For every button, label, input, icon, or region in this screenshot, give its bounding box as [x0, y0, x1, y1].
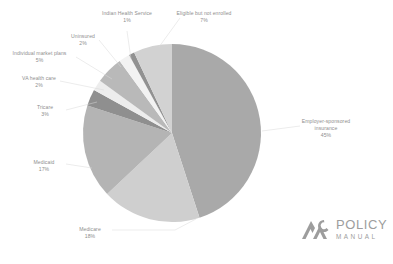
leader-line-individual [76, 57, 112, 79]
logo-wordmark: POLICY MANUAL [336, 218, 387, 241]
pie-label-uninsured: Uninsured 2% [65, 33, 101, 47]
pie-label-medicaid: Medicaid 17% [22, 159, 66, 173]
pie-label-employer-name2: insurance [315, 125, 338, 131]
leader-line-ihs [127, 31, 131, 59]
pie-label-medicare-pct: 18% [68, 233, 112, 240]
pie-label-eligible-name: Eligible but not enrolled [177, 10, 232, 16]
policy-manual-logo: POLICY MANUAL [300, 215, 384, 247]
pie-label-individual-name: Individual market plans [13, 50, 67, 56]
pie-label-employer-pct: 45% [286, 132, 366, 139]
pie-label-va-health-care: VA health care 2% [15, 75, 63, 89]
pie-label-tricare-name: Tricare [37, 104, 53, 110]
leader-line-medicaid [66, 164, 92, 168]
pie-label-employer-sponsored-insurance: Employer-sponsored insurance 45% [286, 118, 366, 140]
mountain-logo-icon [300, 215, 336, 243]
pie-label-uninsured-name: Uninsured [71, 33, 95, 39]
pie-label-eligible-pct: 7% [163, 17, 245, 24]
pie-label-medicaid-name: Medicaid [33, 159, 54, 165]
pie-label-medicare-name: Medicare [79, 226, 101, 232]
pie-label-va-pct: 2% [15, 82, 63, 89]
pie-label-eligible-but-not-enrolled: Eligible but not enrolled 7% [163, 10, 245, 24]
pie-label-medicare: Medicare 18% [68, 226, 112, 240]
leader-line-uninsured [99, 40, 121, 67]
pie-label-medicaid-pct: 17% [22, 166, 66, 173]
pie-label-employer-name: Employer-sponsored [302, 118, 350, 124]
pie-label-ihs-pct: 1% [91, 17, 163, 24]
pie-label-individual-market-plans: Individual market plans 5% [3, 50, 76, 64]
pie-label-individual-pct: 5% [3, 57, 76, 64]
pie-label-uninsured-pct: 2% [65, 40, 101, 47]
pie-label-indian-health-service: Indian Health Service 1% [91, 10, 163, 24]
logo-manual-text: MANUAL [336, 232, 387, 241]
pie-chart-figure: Employer-sponsored insurance 45% Medicar… [0, 0, 393, 264]
pie-slices [83, 44, 261, 222]
logo-policy-text: POLICY [336, 218, 387, 231]
pie-label-tricare-pct: 3% [24, 111, 66, 118]
pie-label-ihs-name: Indian Health Service [102, 10, 152, 16]
pie-label-va-name: VA health care [22, 75, 56, 81]
pie-label-tricare: Tricare 3% [24, 104, 66, 118]
